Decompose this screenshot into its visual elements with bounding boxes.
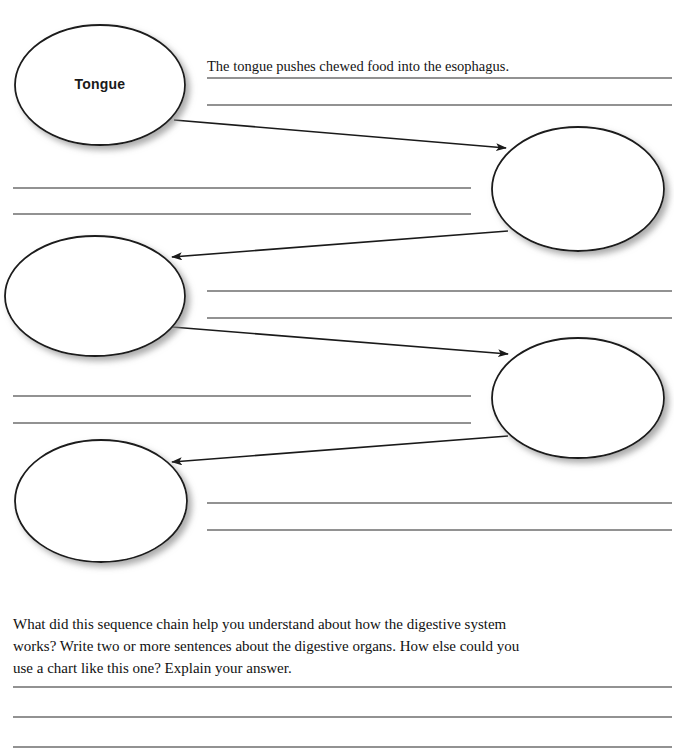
sequence-arrow <box>172 231 508 257</box>
sequence-arrow <box>172 436 508 462</box>
sequence-node-4[interactable] <box>492 338 664 458</box>
answer-text[interactable]: The tongue pushes chewed food into the e… <box>207 58 509 75</box>
node-label-tongue: Tongue <box>75 76 126 92</box>
reflection-prompt-text: What did this sequence chain help you un… <box>13 613 533 679</box>
sequence-node-3[interactable] <box>5 236 185 356</box>
sequence-node-5[interactable] <box>15 440 187 562</box>
sequence-node-2[interactable] <box>492 127 664 251</box>
response-lines-layer <box>13 687 672 747</box>
sequence-arrow <box>174 120 506 148</box>
sequence-arrow <box>172 327 508 354</box>
worksheet-page: Tongue The tongue pushes chewed food int… <box>0 0 674 753</box>
